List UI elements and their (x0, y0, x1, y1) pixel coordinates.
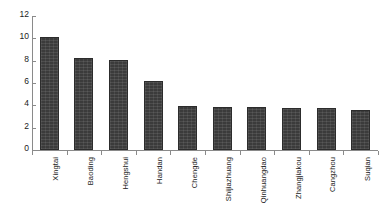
bar (40, 37, 59, 150)
x-tick-mark (274, 151, 275, 155)
bar (74, 58, 93, 150)
x-tick-mark (240, 151, 241, 155)
bar (213, 107, 232, 150)
x-axis-label: Hengshui (122, 157, 130, 190)
x-axis-label: Chengde (191, 157, 199, 188)
x-axis-label: Zhangjiakou (295, 157, 303, 199)
y-tick-label: 0 (24, 144, 29, 153)
y-tick-label: 10 (20, 32, 29, 41)
x-axis-label: Xingtai (52, 157, 60, 181)
bar-chart: 024681012 XingtaiBaodingHengshuiHandanCh… (0, 0, 389, 215)
y-tick-label: 2 (24, 122, 29, 131)
bar (178, 106, 197, 150)
y-tick-label: 8 (24, 55, 29, 64)
bar (144, 81, 163, 150)
x-tick-mark (309, 151, 310, 155)
y-tick-label: 6 (24, 77, 29, 86)
x-tick-mark (378, 151, 379, 155)
x-axis-label: Qinhuangdao (260, 157, 268, 203)
y-tick-label: 12 (20, 10, 29, 19)
x-tick-mark (205, 151, 206, 155)
x-tick-mark (32, 151, 33, 155)
y-tick-label: 4 (24, 99, 29, 108)
x-tick-mark (136, 151, 137, 155)
x-axis-label: Cangzhou (329, 157, 337, 192)
x-axis-label: Handan (156, 157, 164, 184)
x-axis-label: Baoding (87, 157, 95, 185)
plot-area (32, 16, 378, 150)
bar (247, 107, 266, 150)
x-tick-mark (343, 151, 344, 155)
bar (109, 60, 128, 150)
bar (317, 108, 336, 150)
bar (351, 110, 370, 150)
x-axis-label: Shijiazhuang (225, 157, 233, 201)
x-tick-mark (67, 151, 68, 155)
x-tick-mark (101, 151, 102, 155)
bar (282, 108, 301, 150)
x-axis-label: Suqian (364, 157, 372, 181)
x-tick-mark (170, 151, 171, 155)
